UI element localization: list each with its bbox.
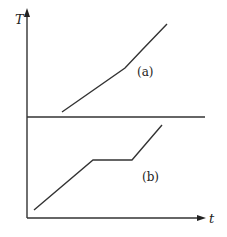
y-axis-label: T bbox=[15, 12, 25, 27]
curve-a-label: (a) bbox=[137, 65, 154, 79]
temperature-time-diagram: T t (a) (b) bbox=[0, 0, 227, 237]
y-axis-arrow-icon bbox=[24, 8, 30, 17]
x-axis-label: t bbox=[209, 211, 215, 226]
curve-b bbox=[34, 125, 162, 210]
x-axis-arrow-icon bbox=[197, 215, 206, 221]
curve-b-label: (b) bbox=[142, 170, 159, 184]
